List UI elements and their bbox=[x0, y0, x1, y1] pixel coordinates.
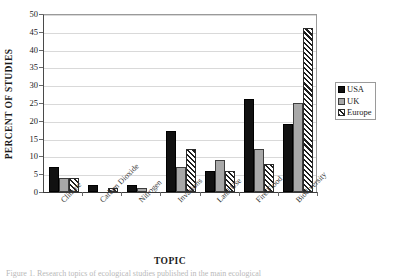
x-tick-mark bbox=[278, 192, 279, 196]
x-tick-mark bbox=[317, 192, 318, 196]
bar-usa bbox=[49, 167, 59, 192]
bar-group bbox=[161, 15, 200, 192]
bar-usa bbox=[205, 171, 215, 192]
legend-item-uk: UK bbox=[338, 97, 372, 106]
bar-group bbox=[240, 15, 279, 192]
bar-group bbox=[201, 15, 240, 192]
legend-item-europe: Europe bbox=[338, 108, 372, 117]
legend-item-usa: USA bbox=[338, 85, 372, 94]
y-tick-label: 40 bbox=[12, 46, 38, 55]
y-tick-label: 0 bbox=[12, 188, 38, 197]
figure-bar-chart: PERCENT OF STUDIES 50454035302520151050 … bbox=[0, 0, 398, 278]
bar-group bbox=[44, 15, 83, 192]
bar-europe bbox=[303, 28, 313, 192]
bar-usa bbox=[166, 131, 176, 192]
bar-usa bbox=[244, 99, 254, 192]
y-tick-label: 45 bbox=[12, 28, 38, 37]
x-axis-title: TOPIC bbox=[0, 256, 340, 266]
y-tick-label: 25 bbox=[12, 99, 38, 108]
legend-label-europe: Europe bbox=[347, 108, 372, 117]
x-tick-mark bbox=[239, 192, 240, 196]
y-tick-label: 35 bbox=[12, 63, 38, 72]
bar-usa bbox=[88, 185, 98, 192]
legend-label-uk: UK bbox=[347, 97, 359, 106]
figure-caption: Figure 1. Research topics of ecological … bbox=[6, 269, 398, 278]
y-tick-label: 10 bbox=[12, 152, 38, 161]
bar-group bbox=[279, 15, 318, 192]
bar-uk bbox=[215, 160, 225, 192]
legend-label-usa: USA bbox=[347, 85, 364, 94]
legend-swatch-europe-icon bbox=[338, 109, 345, 116]
x-tick-mark bbox=[121, 192, 122, 196]
bar-usa bbox=[283, 124, 293, 192]
y-tick-label: 50 bbox=[12, 10, 38, 19]
legend-swatch-usa-icon bbox=[338, 86, 345, 93]
bar-uk bbox=[293, 103, 303, 192]
x-tick-mark bbox=[160, 192, 161, 196]
bar-uk bbox=[254, 149, 264, 192]
y-tick-label: 15 bbox=[12, 135, 38, 144]
y-tick-label: 20 bbox=[12, 117, 38, 126]
x-tick-mark bbox=[82, 192, 83, 196]
bar-group bbox=[83, 15, 122, 192]
y-tick-label: 5 bbox=[12, 170, 38, 179]
y-tick-label: 30 bbox=[12, 81, 38, 90]
legend: USA UK Europe bbox=[335, 82, 376, 120]
x-tick-mark bbox=[200, 192, 201, 196]
plot-area bbox=[43, 14, 317, 192]
bar-usa bbox=[127, 185, 137, 192]
legend-swatch-uk-icon bbox=[338, 98, 345, 105]
bar-group bbox=[122, 15, 161, 192]
